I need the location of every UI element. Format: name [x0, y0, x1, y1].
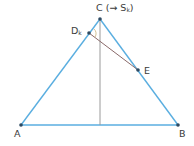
point-a — [19, 123, 23, 127]
label-c: C (→ Sk) — [96, 3, 134, 13]
angle-mark — [94, 29, 96, 37]
triangle-diagram — [0, 0, 194, 146]
label-c-close: ) — [130, 2, 134, 13]
label-d-subscript: k — [78, 29, 81, 36]
label-b: B — [179, 129, 186, 139]
side-bc — [100, 19, 178, 125]
point-d — [87, 31, 91, 35]
point-b — [176, 123, 180, 127]
label-a: A — [14, 129, 21, 139]
point-e — [136, 68, 140, 72]
side-ac — [21, 19, 100, 125]
label-c-text: C (→ S — [96, 2, 126, 13]
label-d: Dk — [71, 26, 82, 36]
segment-de — [89, 33, 138, 70]
point-c — [98, 17, 102, 21]
label-e: E — [144, 66, 150, 76]
